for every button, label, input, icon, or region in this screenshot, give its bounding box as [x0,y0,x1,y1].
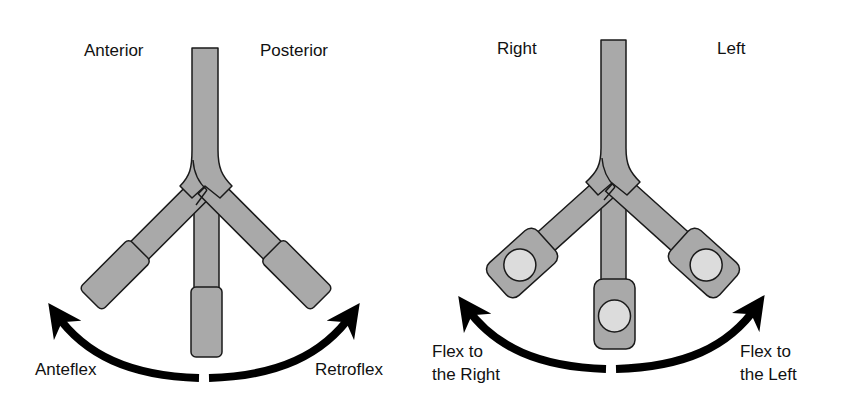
right-label: Right [497,38,537,60]
neutral-tip [191,287,222,357]
flexion-diagram-canvas [0,0,843,419]
anteflex-tip [79,239,151,311]
right-left-diagram [466,40,757,369]
flex-left-label-line2: the Left [740,364,797,386]
main-shaft [586,40,640,195]
anterior-posterior-diagram [56,48,352,378]
flex-left-arrow [616,306,757,369]
posterior-label: Posterior [260,40,328,62]
main-shaft [180,48,232,198]
left-label: Left [717,38,745,60]
retroflex-label: Retroflex [315,359,383,381]
flex-right-label-line1: Flex to [432,341,483,363]
anterior-label: Anterior [84,40,144,62]
anteflex-label: Anteflex [35,359,96,381]
flex-right-label-line2: the Right [432,364,500,386]
flex-right-arrow [466,307,606,369]
retroflex-tip [261,239,333,311]
neutral-lens [599,300,631,332]
flex-left-label-line1: Flex to [740,341,791,363]
